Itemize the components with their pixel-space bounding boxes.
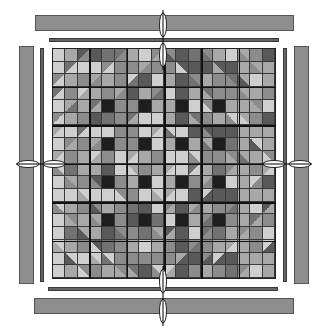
quilt-cell (226, 62, 238, 75)
quilt-cell (250, 87, 262, 100)
half-square-triangle (90, 113, 101, 125)
quilt-cell (176, 62, 188, 75)
quilt-cell (65, 164, 77, 177)
half-square-triangle (53, 49, 64, 61)
quilt-cell (189, 49, 201, 62)
quilt-cell (152, 214, 164, 227)
quilt-cell (201, 227, 213, 240)
quilt-cell (53, 100, 65, 113)
quilt-cell (115, 113, 127, 126)
half-square-triangle (250, 62, 261, 74)
half-square-triangle (263, 113, 274, 125)
quilt-cell (263, 265, 275, 278)
quilt-cell (263, 202, 275, 215)
quilt-cell (213, 62, 225, 75)
quilt-cell (250, 125, 262, 138)
half-square-triangle (263, 74, 274, 86)
quilt-cell (65, 227, 77, 240)
quilt-cell (263, 62, 275, 75)
quilt-cell (127, 227, 139, 240)
quilt-cell (213, 214, 225, 227)
half-square-triangle (250, 176, 261, 188)
quilt-cell (127, 214, 139, 227)
half-square-triangle (115, 265, 126, 277)
half-square-triangle (164, 125, 175, 137)
quilt-cell (201, 176, 213, 189)
quilt-cell (189, 125, 201, 138)
quilt-cell (152, 74, 164, 87)
quilt-cell (127, 74, 139, 87)
quilt-cell (78, 164, 90, 177)
quilt-cell (115, 87, 127, 100)
quilt-cell (250, 189, 262, 202)
quilt-cell (78, 214, 90, 227)
half-square-triangle (250, 253, 261, 265)
quilt-cell (250, 138, 262, 151)
half-square-triangle (65, 100, 76, 112)
quilt-cell (139, 189, 151, 202)
quilt-cell (139, 202, 151, 215)
half-square-triangle (65, 253, 76, 265)
quilt-cell (65, 125, 77, 138)
quilt-cell (53, 125, 65, 138)
quilt-cell (201, 100, 213, 113)
half-square-triangle (127, 164, 138, 176)
quilt-cell (115, 100, 127, 113)
half-square-triangle (176, 253, 187, 265)
quilt-cell (226, 253, 238, 266)
quilt-cell (90, 125, 102, 138)
quilt-cell (65, 265, 77, 278)
quilt-cell (201, 125, 213, 138)
quilt-cell (201, 151, 213, 164)
half-square-triangle (53, 113, 64, 125)
half-square-triangle (226, 151, 237, 163)
half-square-triangle (164, 189, 175, 201)
half-square-triangle (152, 87, 163, 99)
quilt-cell (102, 125, 114, 138)
quilt-cell (176, 151, 188, 164)
quilt-cell (78, 62, 90, 75)
quilt-cell (263, 214, 275, 227)
quilt-cell (115, 164, 127, 177)
half-square-triangle (102, 62, 113, 74)
quilt-cell (213, 113, 225, 126)
quilt-cell (152, 202, 164, 215)
quilt-cell (65, 151, 77, 164)
quilt-cell (250, 113, 262, 126)
quilt-cell (139, 214, 151, 227)
quilt-cell (176, 74, 188, 87)
quilt-cell (65, 87, 77, 100)
half-square-triangle (90, 62, 101, 74)
quilt-cell (102, 265, 114, 278)
half-square-triangle (164, 164, 175, 176)
half-square-triangle (115, 125, 126, 137)
quilt-cell (263, 227, 275, 240)
quilt-cell (139, 138, 151, 151)
half-square-triangle (78, 227, 89, 239)
quilt-cell (189, 100, 201, 113)
quilt-cell (139, 164, 151, 177)
quilt-cell (78, 138, 90, 151)
half-square-triangle (53, 125, 64, 137)
quilt-cell (102, 253, 114, 266)
quilt-cell (65, 49, 77, 62)
quilt-cell (102, 151, 114, 164)
quilt-cell (139, 100, 151, 113)
quilt-cell (176, 87, 188, 100)
quilt-cell (78, 74, 90, 87)
quilt-cell (78, 100, 90, 113)
quilt-cell (213, 138, 225, 151)
quilt-cell (65, 202, 77, 215)
quilt-cell (213, 151, 225, 164)
quilt-cell (250, 176, 262, 189)
half-square-triangle (152, 125, 163, 137)
half-square-triangle (189, 151, 200, 163)
quilt-cell (127, 151, 139, 164)
quilt-cell (189, 138, 201, 151)
quilt-cell (78, 202, 90, 215)
quilt-cell (176, 265, 188, 278)
quilt-cell (127, 253, 139, 266)
half-square-triangle (127, 189, 138, 201)
quilt-cell (115, 189, 127, 202)
quilt-cell (226, 214, 238, 227)
